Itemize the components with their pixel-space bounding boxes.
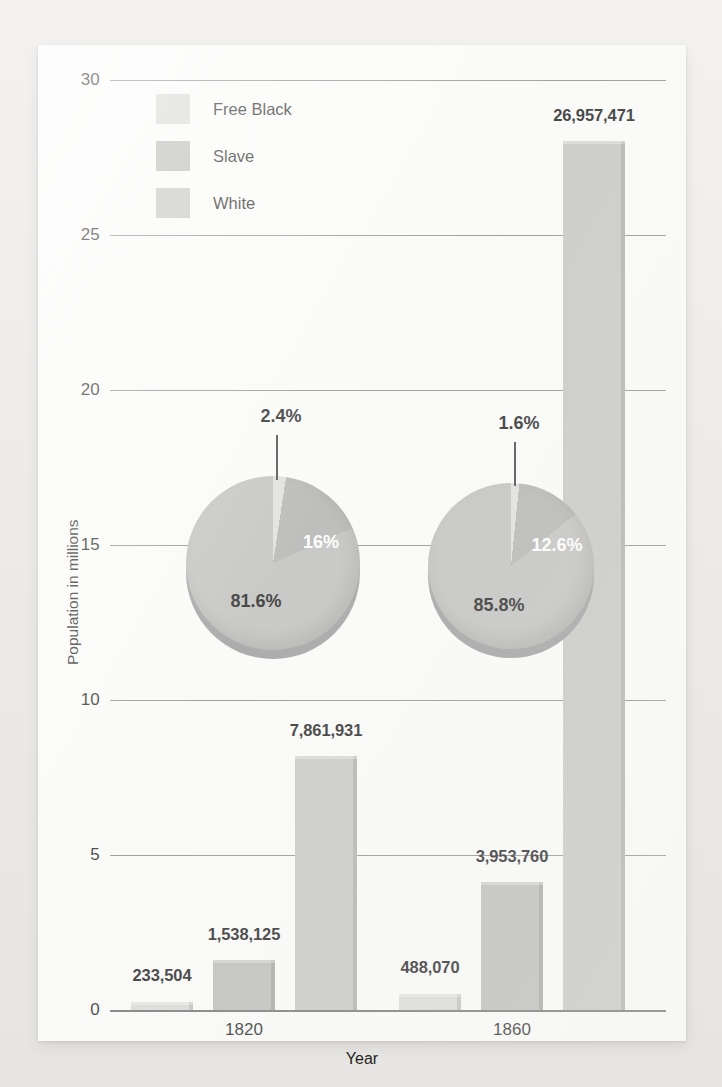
bar-label-1860-white: 26,957,471 xyxy=(524,106,664,125)
bar-edge xyxy=(353,756,357,1010)
bar-edge xyxy=(271,960,275,1010)
gridline-30 xyxy=(110,80,666,81)
pie-1820-label-slave: 16% xyxy=(286,532,356,553)
bar-highlight xyxy=(295,756,357,759)
x-axis-label: Year xyxy=(38,1050,686,1068)
y-tick-30: 30 xyxy=(38,70,100,90)
pie-1820-leader-free-black xyxy=(276,435,278,480)
bar-1820-slave[interactable] xyxy=(213,960,275,1010)
y-axis-label: Population in millions xyxy=(64,519,82,665)
bar-1860-slave[interactable] xyxy=(481,882,543,1010)
pie-1820-slices xyxy=(186,476,360,650)
y-tick-5: 5 xyxy=(38,845,100,865)
y-tick-0: 0 xyxy=(38,1000,100,1020)
chart-plot-area: 30 25 20 15 10 5 0 Population in million… xyxy=(38,45,686,1041)
pie-1860-label-white: 85.8% xyxy=(444,595,554,616)
y-tick-10: 10 xyxy=(38,690,100,710)
bar-highlight xyxy=(213,960,275,963)
pie-1820[interactable] xyxy=(186,476,360,650)
legend-swatch-white xyxy=(156,188,190,218)
legend-item-free-black: Free Black xyxy=(156,90,292,128)
legend-label-white: White xyxy=(213,194,255,213)
y-tick-25: 25 xyxy=(38,225,100,245)
bar-label-1860-slave: 3,953,760 xyxy=(442,847,582,866)
legend-label-free-black: Free Black xyxy=(213,100,292,119)
bar-edge xyxy=(539,882,543,1010)
pie-1820-label-free-black: 2.4% xyxy=(241,406,321,427)
bar-highlight xyxy=(563,141,625,144)
legend-item-white: White xyxy=(156,184,292,222)
bar-label-1820-slave: 1,538,125 xyxy=(174,925,314,944)
legend-label-slave: Slave xyxy=(213,147,254,166)
pie-1820-label-white: 81.6% xyxy=(206,591,306,612)
bar-label-1820-free-black: 233,504 xyxy=(102,966,222,985)
bar-highlight xyxy=(131,1002,193,1005)
bar-1820-white[interactable] xyxy=(295,756,357,1010)
bar-label-1860-free-black: 488,070 xyxy=(370,958,490,977)
legend-swatch-slave xyxy=(156,141,190,171)
bar-1820-free-black[interactable] xyxy=(131,1002,193,1010)
y-tick-20: 20 xyxy=(38,380,100,400)
pie-1860-slices xyxy=(428,483,594,649)
bar-label-1820-white: 7,861,931 xyxy=(256,721,396,740)
pie-1860[interactable] xyxy=(428,483,594,649)
chart-card: 30 25 20 15 10 5 0 Population in million… xyxy=(38,45,686,1041)
bar-edge xyxy=(621,141,625,1010)
pie-1860-label-slave: 12.6% xyxy=(517,535,597,556)
bar-1860-free-black[interactable] xyxy=(399,994,461,1010)
x-tick-1860: 1860 xyxy=(452,1020,572,1040)
pie-1860-label-free-black: 1.6% xyxy=(479,413,559,434)
x-tick-1820: 1820 xyxy=(184,1020,304,1040)
chart-legend: Free Black Slave White xyxy=(156,90,292,231)
legend-item-slave: Slave xyxy=(156,137,292,175)
bar-highlight xyxy=(399,994,461,997)
legend-swatch-free-black xyxy=(156,94,190,124)
pie-1860-leader-free-black xyxy=(514,442,516,486)
x-axis-line xyxy=(110,1010,666,1012)
page-root: 30 25 20 15 10 5 0 Population in million… xyxy=(0,0,722,1087)
bar-highlight xyxy=(481,882,543,885)
